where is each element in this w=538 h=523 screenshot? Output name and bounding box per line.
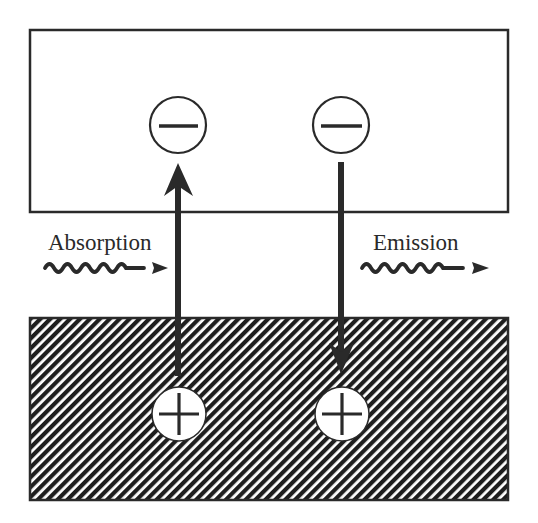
electron-right bbox=[313, 97, 369, 153]
lower-band-box bbox=[30, 318, 508, 500]
electron-left bbox=[150, 97, 206, 153]
band-diagram: Absorption Emission bbox=[0, 0, 538, 523]
hole-left bbox=[152, 387, 206, 441]
emission-label: Emission bbox=[373, 230, 459, 255]
absorption-photon-wave-icon bbox=[45, 262, 168, 274]
absorption-label: Absorption bbox=[48, 230, 152, 255]
hole-right bbox=[315, 387, 369, 441]
emission-photon-wave-icon bbox=[362, 262, 489, 274]
upper-band-box bbox=[30, 30, 508, 212]
